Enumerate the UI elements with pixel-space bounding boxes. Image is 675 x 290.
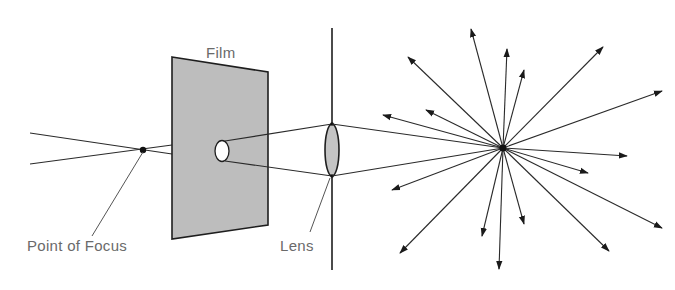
- lens-leader: [310, 178, 330, 232]
- arrow-ray: [503, 148, 662, 228]
- arrow-ray: [408, 57, 503, 148]
- optics-diagram: Film Point of Focus Lens: [0, 0, 675, 290]
- point-of-focus-label: Point of Focus: [27, 237, 127, 254]
- film-hole: [215, 141, 229, 162]
- lens: [325, 124, 339, 176]
- arrow-ray: [503, 148, 524, 224]
- arrow-ray: [471, 29, 503, 148]
- lens-label: Lens: [280, 237, 314, 254]
- arrow-ray: [482, 148, 503, 236]
- film-label: Film: [206, 44, 236, 61]
- focus-rays: [30, 133, 172, 164]
- arrow-ray: [503, 47, 603, 148]
- arrow-ray: [400, 148, 503, 253]
- focus-ray-upper: [30, 133, 172, 154]
- ray-source-to-lens-bottom: [332, 148, 503, 176]
- ray-source-to-lens-top: [332, 124, 503, 148]
- film: [172, 57, 332, 239]
- lens-assembly: [310, 28, 339, 270]
- arrow-ray: [392, 148, 503, 190]
- arrow-ray: [499, 148, 503, 269]
- arrow-ray: [503, 49, 507, 148]
- arrow-ray: [503, 91, 662, 148]
- focus-ray-lower: [30, 145, 172, 164]
- light-source-point: [500, 145, 507, 152]
- point-of-focus-leader: [92, 152, 143, 236]
- arrow-ray: [503, 148, 627, 156]
- radiating-rays: [383, 29, 662, 269]
